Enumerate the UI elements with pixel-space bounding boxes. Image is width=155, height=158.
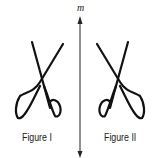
arrow-down-icon <box>78 151 83 158</box>
figure-2-label: Figure II <box>104 132 136 143</box>
scissors-figure-2 <box>97 42 144 118</box>
figure-1-label: Figure I <box>22 132 52 143</box>
scissors-figure-1 <box>16 42 63 118</box>
line-m-label: m <box>77 2 84 13</box>
line-m <box>78 16 83 158</box>
arrow-up-icon <box>78 16 83 24</box>
